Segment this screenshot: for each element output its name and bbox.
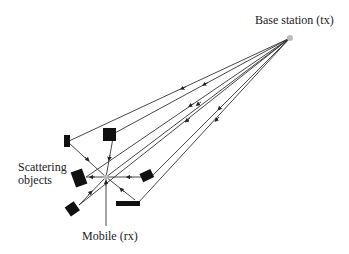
base-station-label: Base station (tx) [255, 14, 334, 27]
scatterers [64, 128, 154, 217]
ray-direct [106, 38, 290, 177]
mobile-label: Mobile (rx) [82, 230, 138, 243]
scatterer-left [71, 168, 88, 187]
mobile-node [104, 175, 109, 180]
scatterer-right [139, 169, 154, 182]
propagation-diagram [0, 0, 349, 254]
scattering-objects-label-line2: objects [18, 174, 52, 187]
scatterer-top-left [64, 135, 70, 147]
base-station-node [287, 35, 293, 41]
scatterer-bottom-right [116, 201, 140, 206]
ray-to-scatterer-bottom-right [138, 38, 290, 203]
scatterer-top [103, 128, 116, 141]
incident-rays [69, 38, 290, 205]
ray-to-scatterer-left [86, 38, 290, 177]
scatterer-bottom-left [65, 201, 80, 216]
ray-to-scatterer-top [113, 38, 290, 134]
